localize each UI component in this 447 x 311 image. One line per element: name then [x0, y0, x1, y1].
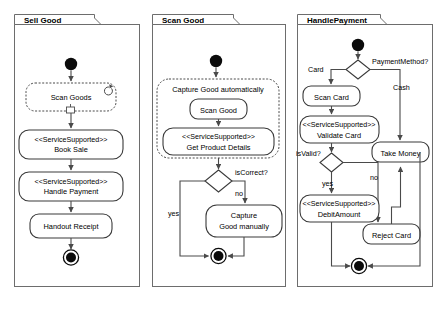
group-capture-good-automatically[interactable]: Capture Good automatically Scan Good <<S… [157, 79, 279, 158]
node-get-product-details-label: Get Product Details [186, 143, 250, 152]
node-reject-card-label: Reject Card [372, 231, 411, 240]
edge-label-no-scan-good: no [235, 189, 243, 198]
node-get-product-details[interactable]: <<ServiceSupported>> Get Product Details [163, 128, 274, 155]
node-reject-card[interactable]: Reject Card [363, 224, 420, 244]
node-handout-receipt[interactable]: Handout Receipt [30, 214, 112, 238]
activity-diagram-canvas: Sell Good Scan Goods <<ServiceSupported>… [0, 0, 447, 311]
edge-label-yes-handle-payment: yes [322, 179, 334, 188]
initial-node-sell-good [65, 58, 77, 70]
final-node-scan-good [211, 248, 226, 263]
edge-label-yes-scan-good: yes [168, 209, 180, 218]
group-capture-good-automatically-label: Capture Good automatically [172, 85, 264, 94]
node-get-product-details-stereotype: <<ServiceSupported>> [182, 133, 255, 141]
edge-label-no-handle-payment: no [370, 173, 378, 182]
node-handle-payment-label: Handle Payment [44, 187, 99, 196]
node-handle-payment[interactable]: <<ServiceSupported>> Handle Payment [19, 172, 123, 201]
node-debit-amount-stereotype: <<ServiceSupported>> [303, 200, 376, 208]
initial-node-handle-payment [352, 39, 364, 51]
node-scan-good[interactable]: Scan Good [190, 99, 247, 119]
node-scan-goods[interactable]: Scan Goods [26, 83, 116, 113]
panel-handle-payment: HandlePayment PaymentMethod? Card Cash S… [296, 15, 433, 287]
node-debit-amount-label: DebitAmount [318, 210, 361, 219]
decision-payment-method-label: PaymentMethod? [372, 57, 428, 66]
node-capture-good-manually-shape [206, 205, 282, 237]
initial-node-scan-good [210, 55, 222, 67]
node-validate-card-label: Validate Card [317, 131, 361, 140]
node-debit-amount[interactable]: <<ServiceSupported>> DebitAmount [300, 195, 379, 222]
edge-label-card: Card [308, 65, 324, 74]
final-node-sell-good [63, 250, 78, 265]
node-scan-good-label: Scan Good [200, 106, 237, 115]
node-scan-goods-label: Scan Goods [51, 93, 92, 102]
node-capture-good-manually[interactable]: Capture Good manually [206, 205, 282, 237]
node-validate-card-stereotype: <<ServiceSupported>> [303, 121, 376, 129]
node-handout-receipt-label: Handout Receipt [43, 222, 98, 231]
final-node-handle-payment [351, 258, 366, 273]
node-capture-good-manually-label-line1: Capture [231, 211, 257, 220]
node-capture-good-manually-label-line2: Good manually [219, 222, 269, 231]
decision-is-correct-label: isCorrect? [235, 168, 268, 177]
node-scan-card[interactable]: Scan Card [303, 86, 360, 106]
panel-title-scan-good: Scan Good [162, 16, 204, 25]
node-take-money-label: Take Money [381, 149, 421, 158]
node-book-sale-stereotype: <<ServiceSupported>> [35, 136, 108, 144]
panel-title-sell-good: Sell Good [24, 16, 61, 25]
node-handle-payment-stereotype: <<ServiceSupported>> [35, 178, 108, 186]
node-book-sale-label: Book Sale [54, 145, 88, 154]
panel-scan-good: Scan Good Capture Good automatically Sca… [153, 15, 286, 287]
panel-sell-good: Sell Good Scan Goods <<ServiceSupported>… [15, 15, 140, 287]
decision-is-valid-label: isValid? [296, 149, 321, 158]
node-book-sale[interactable]: <<ServiceSupported>> Book Sale [19, 130, 123, 159]
edge-label-cash: Cash [393, 83, 410, 92]
node-scan-card-label: Scan Card [314, 93, 349, 102]
node-validate-card[interactable]: <<ServiceSupported>> Validate Card [300, 116, 379, 143]
panel-title-handle-payment: HandlePayment [307, 16, 367, 25]
